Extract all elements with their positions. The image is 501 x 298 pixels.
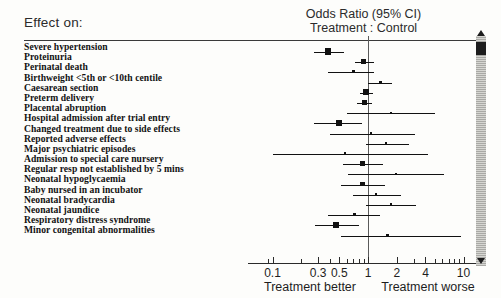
x-axis-minor-tick bbox=[442, 259, 443, 263]
edge-arrow-top-icon bbox=[477, 30, 485, 36]
x-axis-minor-tick bbox=[414, 259, 415, 263]
x-axis-tick-label: 1 bbox=[365, 266, 372, 280]
point-estimate-marker bbox=[360, 182, 365, 187]
x-axis-minor-tick bbox=[459, 259, 460, 263]
x-axis-minor-tick bbox=[449, 259, 450, 263]
point-estimate-marker bbox=[333, 222, 339, 228]
x-axis-minor-tick bbox=[353, 259, 354, 263]
x-axis-tick-label: 2 bbox=[393, 266, 400, 280]
page-edge-strip bbox=[476, 36, 486, 266]
point-estimate-marker bbox=[385, 142, 387, 144]
forest-plot-canvas: 0.10.30.512410Treatment betterTreatment … bbox=[0, 0, 501, 298]
x-axis-minor-tick bbox=[301, 259, 302, 263]
point-estimate-marker bbox=[375, 193, 377, 195]
point-estimate-marker bbox=[336, 120, 342, 126]
x-axis-minor-tick bbox=[359, 259, 360, 263]
confidence-interval-line bbox=[366, 144, 409, 145]
x-axis-tick-label: 10 bbox=[457, 266, 470, 280]
x-axis-tick-label: 0.3 bbox=[310, 266, 327, 280]
confidence-interval-line bbox=[341, 236, 461, 237]
point-estimate-marker bbox=[352, 70, 355, 73]
x-axis-tick-label: 0.1 bbox=[264, 266, 281, 280]
point-estimate-marker bbox=[344, 152, 346, 154]
point-estimate-marker bbox=[363, 89, 369, 95]
x-axis-minor-tick bbox=[347, 259, 348, 263]
point-estimate-marker bbox=[395, 173, 397, 175]
page-edge-strip-cap bbox=[476, 42, 486, 55]
x-axis-minor-tick bbox=[330, 259, 331, 263]
point-estimate-marker bbox=[390, 203, 392, 205]
x-axis-tick-label: 0.5 bbox=[331, 266, 348, 280]
treatment-better-caption: Treatment better bbox=[264, 280, 356, 294]
point-estimate-marker bbox=[325, 48, 331, 54]
x-axis-major-tick bbox=[397, 257, 398, 263]
point-estimate-marker bbox=[379, 81, 382, 84]
x-axis-line bbox=[248, 263, 476, 264]
point-estimate-marker bbox=[390, 112, 392, 114]
point-estimate-marker bbox=[353, 213, 356, 216]
x-axis-major-tick bbox=[339, 257, 340, 263]
x-axis-minor-tick bbox=[454, 259, 455, 263]
point-estimate-marker bbox=[386, 234, 388, 236]
x-axis-major-tick bbox=[318, 257, 319, 263]
x-axis-tick-label: 4 bbox=[422, 266, 429, 280]
confidence-interval-line bbox=[330, 134, 415, 135]
point-estimate-marker bbox=[360, 161, 365, 166]
null-reference-line bbox=[368, 36, 369, 264]
x-axis-major-tick bbox=[368, 257, 369, 263]
forest-plot-page: Effect on: Odds Ratio (95% CI) Treatment… bbox=[0, 0, 501, 298]
point-estimate-marker bbox=[370, 132, 372, 134]
treatment-worse-caption: Treatment worse bbox=[381, 280, 474, 294]
point-estimate-marker bbox=[361, 59, 366, 64]
x-axis-minor-tick bbox=[268, 259, 269, 263]
x-axis-major-tick bbox=[273, 257, 274, 263]
confidence-interval-line bbox=[273, 154, 428, 155]
edge-arrow-bottom-icon bbox=[477, 258, 485, 264]
x-axis-major-tick bbox=[425, 257, 426, 263]
x-axis-minor-tick bbox=[435, 259, 436, 263]
x-axis-major-tick bbox=[464, 257, 465, 263]
x-axis-minor-tick bbox=[364, 259, 365, 263]
point-estimate-marker bbox=[362, 100, 367, 105]
